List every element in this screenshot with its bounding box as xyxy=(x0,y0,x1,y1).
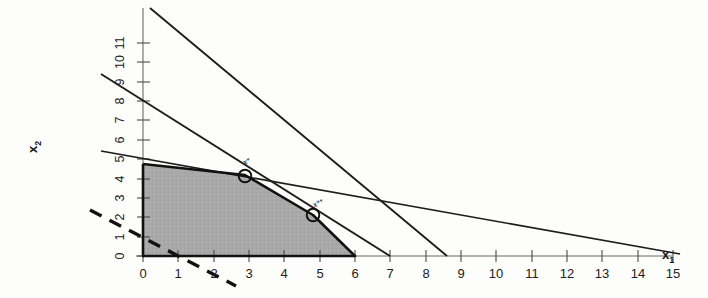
x-tick-label-4: 4 xyxy=(272,266,296,281)
x-tick-label-3: 3 xyxy=(237,266,261,281)
y-tick-label-2: 2 xyxy=(113,207,127,227)
x-tick-label-9: 9 xyxy=(449,266,473,281)
x-tick-label-6: 6 xyxy=(343,266,367,281)
x-tick-label-8: 8 xyxy=(414,266,438,281)
x-tick-label-7: 7 xyxy=(378,266,402,281)
y-tick-label-5: 5 xyxy=(113,149,127,169)
x-tick-label-5: 5 xyxy=(308,266,332,281)
y-tick-label-8: 8 xyxy=(113,91,127,111)
x-tick-label-14: 14 xyxy=(626,266,650,281)
x-tick-label-1: 1 xyxy=(166,266,190,281)
y-tick-label-1: 1 xyxy=(113,227,127,247)
y-tick-label-10: 10 xyxy=(113,52,127,72)
y-tick-label-9: 9 xyxy=(113,72,127,92)
plot-svg xyxy=(0,0,708,298)
x-tick-label-0: 0 xyxy=(131,266,155,281)
y-axis-label: x2 xyxy=(25,141,43,153)
y-tick-label-4: 4 xyxy=(113,169,127,189)
x-tick-label-10: 10 xyxy=(484,266,508,281)
y-tick-label-0: 0 xyxy=(113,246,127,266)
x-tick-label-11: 11 xyxy=(520,266,544,281)
y-tick-label-6: 6 xyxy=(113,130,127,150)
x-tick-label-13: 13 xyxy=(590,266,614,281)
y-tick-label-3: 3 xyxy=(113,188,127,208)
x-tick-label-2: 2 xyxy=(202,266,226,281)
x-tick-label-15: 15 xyxy=(661,266,685,281)
figure-canvas: x1 x2 0 1 2 3 4 5 6 7 8 9 10 11 12 13 14… xyxy=(0,0,708,298)
x-axis-label: x1 xyxy=(662,247,674,265)
y-tick-label-11: 11 xyxy=(113,33,127,53)
y-tick-label-7: 7 xyxy=(113,110,127,130)
x-tick-label-12: 12 xyxy=(555,266,579,281)
